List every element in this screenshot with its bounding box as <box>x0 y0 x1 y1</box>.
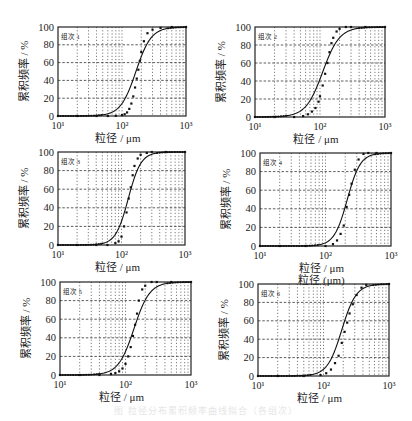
data-marker <box>128 197 130 199</box>
data-marker <box>90 115 92 117</box>
data-marker <box>59 374 61 376</box>
data-marker <box>93 244 95 246</box>
x-axis-label: 粒径 / μm <box>95 131 140 144</box>
panel-label: 组次 4 <box>263 158 283 167</box>
data-marker <box>130 186 132 188</box>
data-marker <box>132 95 134 97</box>
x-tick-label: 10¹ <box>252 380 265 391</box>
data-marker <box>65 115 67 117</box>
data-marker <box>260 375 262 377</box>
x-tick-label: 10³ <box>179 249 192 260</box>
data-marker <box>83 244 85 246</box>
y-tick-label: 20 <box>244 352 255 363</box>
data-marker <box>278 375 280 377</box>
data-marker <box>280 115 282 117</box>
data-marker <box>101 114 103 116</box>
data-marker <box>385 152 387 154</box>
data-marker <box>166 151 168 153</box>
y-tick-label: 40 <box>44 202 55 213</box>
data-marker <box>344 331 346 333</box>
data-marker <box>319 95 321 97</box>
y-tick-label: 100 <box>235 22 251 33</box>
data-marker <box>289 375 291 377</box>
data-marker <box>275 375 277 377</box>
data-marker <box>57 244 59 246</box>
data-marker <box>275 245 277 247</box>
data-marker <box>179 151 181 153</box>
data-marker <box>117 240 119 242</box>
data-marker <box>298 245 300 247</box>
data-marker <box>367 152 369 154</box>
data-marker <box>180 281 182 283</box>
y-tick-label: 80 <box>44 39 55 50</box>
y-axis-label: 累积频率 / % <box>17 41 30 103</box>
data-marker <box>80 244 82 246</box>
data-marker <box>345 26 347 28</box>
x-tick-label: 10² <box>314 121 327 132</box>
data-marker <box>361 27 363 29</box>
data-marker <box>358 27 360 29</box>
data-marker <box>60 244 62 246</box>
y-tick-label: 40 <box>246 203 257 214</box>
data-marker <box>273 375 275 377</box>
data-marker <box>357 158 359 160</box>
x-tick-label: 10¹ <box>254 250 267 261</box>
data-marker <box>296 375 298 377</box>
data-marker <box>185 26 187 28</box>
data-marker <box>62 374 64 376</box>
data-marker <box>98 114 100 116</box>
data-marker <box>177 26 179 28</box>
data-marker <box>380 283 382 285</box>
data-marker <box>335 30 337 32</box>
data-marker <box>270 375 272 377</box>
data-marker <box>382 26 384 28</box>
data-marker <box>341 342 343 344</box>
data-marker <box>301 245 303 247</box>
data-marker <box>254 116 256 118</box>
data-marker <box>272 116 274 118</box>
data-marker <box>80 374 82 376</box>
data-marker <box>352 303 354 305</box>
data-marker <box>144 285 146 287</box>
x-tick-label: 10³ <box>383 380 396 391</box>
y-tick-label: 80 <box>241 40 252 51</box>
data-marker <box>268 375 270 377</box>
data-marker <box>283 245 285 247</box>
data-marker <box>130 346 132 348</box>
data-marker <box>311 111 313 113</box>
data-marker <box>169 282 171 284</box>
data-marker <box>286 375 288 377</box>
x-tick-label: 10² <box>115 249 128 260</box>
data-marker <box>70 374 72 376</box>
y-tick-label: 60 <box>246 185 257 196</box>
data-marker <box>307 113 309 115</box>
data-marker <box>85 115 87 117</box>
data-marker <box>291 375 293 377</box>
data-marker <box>146 152 148 154</box>
data-marker <box>317 244 319 246</box>
data-marker <box>278 116 280 118</box>
data-marker <box>281 375 283 377</box>
data-marker <box>294 375 296 377</box>
x-tick-label: 10³ <box>379 121 392 132</box>
data-marker <box>265 375 267 377</box>
data-marker <box>383 283 385 285</box>
data-marker <box>123 225 125 227</box>
panel-label: 组次 6 <box>261 289 281 298</box>
data-marker <box>107 115 109 117</box>
data-marker <box>325 372 327 374</box>
data-marker <box>257 375 259 377</box>
data-marker <box>182 151 184 153</box>
data-marker <box>169 151 171 153</box>
y-tick-label: 20 <box>241 94 252 105</box>
data-marker <box>387 152 389 154</box>
y-tick-label: 100 <box>240 148 256 159</box>
panel-label: 组次 2 <box>258 32 277 41</box>
data-marker <box>378 284 380 286</box>
data-marker <box>159 27 161 29</box>
data-marker <box>264 245 266 247</box>
y-tick-label: 100 <box>238 279 254 290</box>
chart-panel-4: 02040608010010¹10²10³粒径 / μm粒径 (μm)累积频率 … <box>219 148 398 288</box>
data-marker <box>95 244 97 246</box>
y-axis-label: 累积频率 / % <box>219 169 232 231</box>
